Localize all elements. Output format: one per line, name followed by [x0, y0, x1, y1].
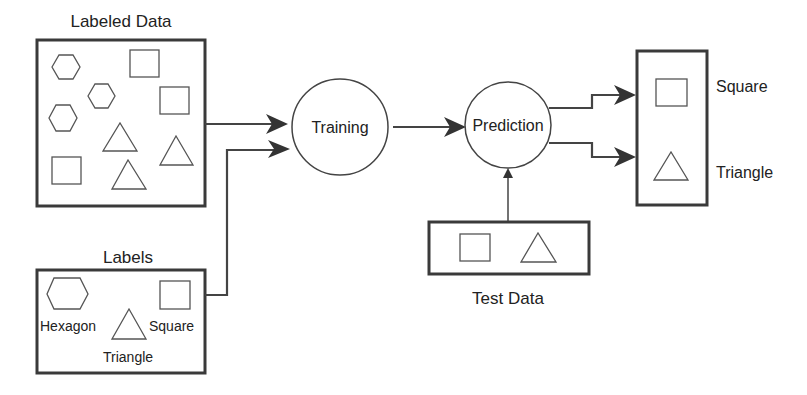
output-square-label: Square — [716, 78, 768, 95]
labeled-data-box — [37, 40, 205, 206]
prediction-label: Prediction — [472, 117, 543, 134]
edge-labeled-data-to-training — [205, 114, 288, 134]
ml-workflow-diagram: Labeled Data Labels Hexagon Triangle Squ… — [0, 0, 807, 395]
triangle-label: Triangle — [103, 349, 153, 365]
labels-title: Labels — [103, 248, 153, 267]
hexagon-label: Hexagon — [40, 318, 96, 334]
training-node: Training — [292, 79, 388, 175]
edge-prediction-to-triangle — [549, 143, 636, 167]
output-group: Square Triangle — [637, 51, 773, 205]
test-data-group: Test Data — [429, 168, 589, 308]
edge-prediction-to-square — [549, 85, 636, 108]
labeled-data-title: Labeled Data — [70, 12, 172, 31]
test-data-title: Test Data — [472, 289, 544, 308]
prediction-node: Prediction — [465, 82, 551, 168]
edge-labels-to-training — [205, 140, 290, 295]
training-label: Training — [311, 119, 368, 136]
output-triangle-label: Triangle — [716, 164, 773, 181]
test-data-box — [429, 222, 589, 274]
labeled-data-group: Labeled Data — [37, 12, 205, 206]
square-label: Square — [149, 318, 194, 334]
edge-training-to-prediction — [393, 117, 466, 137]
arrow-head-icon — [503, 168, 513, 178]
output-box — [637, 51, 707, 205]
labels-group: Labels Hexagon Triangle Square — [37, 248, 205, 373]
